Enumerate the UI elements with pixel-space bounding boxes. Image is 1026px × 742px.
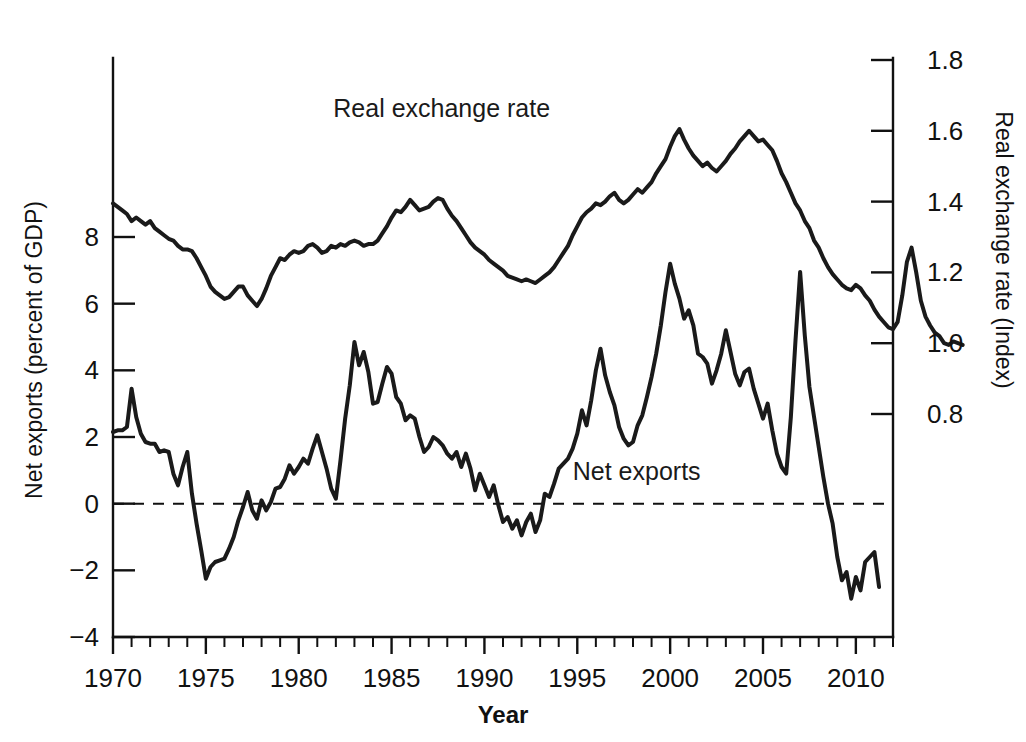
y-axis-left-title: Net exports (percent of GDP) [21,201,47,499]
y-tick-label-left: 8 [85,222,99,252]
y-tick-label-left: 2 [85,422,99,452]
x-tick-label: 1990 [456,663,514,693]
x-tick-label: 2005 [734,663,792,693]
y-axis-right-title: Real exchange rate (Index) [991,111,1017,388]
y-tick-label-left: 0 [85,489,99,519]
x-tick-label: 2000 [641,663,699,693]
annotation-real-exchange-rate: Real exchange rate [333,94,550,122]
y-tick-label-right: 1.6 [927,116,963,146]
x-tick-label: 1970 [84,663,142,693]
x-tick-label: 2010 [827,663,885,693]
annotation-net-exports: Net exports [573,457,701,485]
y-tick-label-left: −2 [69,555,99,585]
chart-figure: 86420−2−41.81.61.41.21.00.81970197519801… [0,0,1026,742]
x-axis-title: Year [478,701,529,728]
y-tick-label-left: 4 [85,355,99,385]
y-tick-label-right: 0.8 [927,399,963,429]
y-tick-label-right: 1.0 [927,328,963,358]
x-tick-label: 1975 [177,663,235,693]
y-tick-label-left: −4 [69,622,99,652]
y-tick-label-left: 6 [85,289,99,319]
y-tick-label-right: 1.8 [927,45,963,75]
y-tick-label-right: 1.4 [927,187,963,217]
y-tick-label-right: 1.2 [927,257,963,287]
x-tick-label: 1995 [548,663,606,693]
x-tick-label: 1985 [363,663,421,693]
x-tick-label: 1980 [270,663,328,693]
dual-axis-line-chart: 86420−2−41.81.61.41.21.00.81970197519801… [0,0,1026,742]
